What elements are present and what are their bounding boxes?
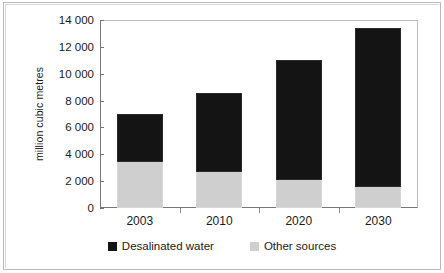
y-tick-mark xyxy=(100,154,104,155)
legend-item: Other sources xyxy=(250,240,336,252)
legend-label: Other sources xyxy=(264,240,336,252)
bar-segment-other-sources xyxy=(196,172,242,208)
bar-segment-other-sources xyxy=(276,180,322,208)
x-tick-label: 2010 xyxy=(179,214,259,228)
chart-legend: Desalinated waterOther sources xyxy=(0,240,444,252)
x-tick-label: 2030 xyxy=(338,214,418,228)
bar-segment-desalinated-water xyxy=(196,93,242,172)
bar-segment-desalinated-water xyxy=(276,60,322,180)
bar-group xyxy=(117,114,163,208)
bar-segment-other-sources xyxy=(355,187,401,208)
x-tick-mark xyxy=(339,208,340,213)
y-tick-label: 8 000 xyxy=(34,95,94,107)
y-tick-label: 6 000 xyxy=(34,121,94,133)
y-tick-mark xyxy=(100,208,104,209)
y-tick-mark xyxy=(100,20,104,21)
plot-area xyxy=(100,20,418,208)
legend-item: Desalinated water xyxy=(108,240,214,252)
bar-segment-other-sources xyxy=(117,162,163,208)
y-tick-mark xyxy=(100,127,104,128)
bar-group xyxy=(276,60,322,208)
legend-label: Desalinated water xyxy=(122,240,214,252)
legend-swatch-icon xyxy=(250,242,259,251)
x-tick-label: 2020 xyxy=(259,214,339,228)
y-tick-mark xyxy=(100,74,104,75)
x-tick-mark xyxy=(259,208,260,213)
bar-segment-desalinated-water xyxy=(117,114,163,162)
y-tick-mark xyxy=(100,101,104,102)
bar-group xyxy=(196,93,242,208)
x-tick-mark xyxy=(180,208,181,213)
y-tick-mark xyxy=(100,47,104,48)
y-tick-label: 12 000 xyxy=(34,41,94,53)
chart-figure: million cubic metres 02 0004 0006 0008 0… xyxy=(0,0,444,273)
y-tick-label: 2 000 xyxy=(34,175,94,187)
y-axis-tick-labels: 02 0004 0006 0008 00010 00012 00014 000 xyxy=(30,20,94,208)
y-tick-label: 0 xyxy=(34,202,94,214)
bar-group xyxy=(355,28,401,208)
y-tick-label: 10 000 xyxy=(34,68,94,80)
y-tick-label: 14 000 xyxy=(34,14,94,26)
x-tick-label: 2003 xyxy=(100,214,180,228)
legend-swatch-icon xyxy=(108,242,117,251)
y-tick-mark xyxy=(100,181,104,182)
y-tick-label: 4 000 xyxy=(34,148,94,160)
bar-segment-desalinated-water xyxy=(355,28,401,186)
